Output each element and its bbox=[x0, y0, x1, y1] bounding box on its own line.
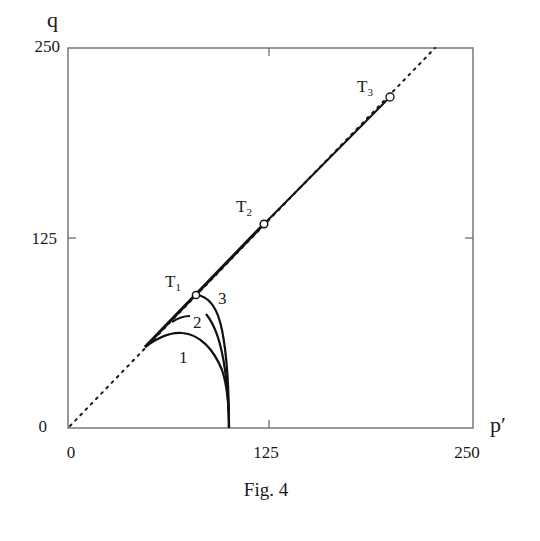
y-tick-label-125: 125 bbox=[32, 229, 58, 248]
curve-1-label: 1 bbox=[179, 348, 188, 367]
t1-marker bbox=[192, 291, 199, 298]
curve-2 bbox=[206, 314, 229, 428]
figure-caption: Fig. 4 bbox=[244, 479, 289, 500]
t3-marker bbox=[386, 93, 394, 101]
x-tick-label-250: 250 bbox=[454, 443, 480, 462]
t3-label: T3 bbox=[357, 77, 373, 98]
x-tick-label-125: 125 bbox=[253, 443, 279, 462]
curve-3-label: 3 bbox=[218, 289, 227, 308]
x-axis-label: p′ bbox=[490, 412, 506, 437]
t1-label: T1 bbox=[165, 272, 181, 293]
t2-label: T2 bbox=[236, 197, 252, 218]
curve-2-label: 2 bbox=[193, 313, 202, 332]
plot-frame bbox=[68, 48, 473, 428]
y-axis-label: q bbox=[47, 7, 58, 32]
x-tick-label-0: 0 bbox=[67, 443, 76, 462]
stress-path-t1-t2 bbox=[145, 226, 262, 347]
stress-path-t2-t3 bbox=[266, 99, 388, 222]
y-tick-label-0: 0 bbox=[39, 417, 48, 436]
y-tick-label-250: 250 bbox=[35, 37, 61, 56]
t2-marker bbox=[260, 220, 268, 228]
figure: T1 T2 T3 1 2 3 q p′ 250 125 0 0 125 250 … bbox=[0, 0, 540, 541]
chart-canvas: T1 T2 T3 1 2 3 q p′ 250 125 0 0 125 250 … bbox=[0, 0, 540, 541]
